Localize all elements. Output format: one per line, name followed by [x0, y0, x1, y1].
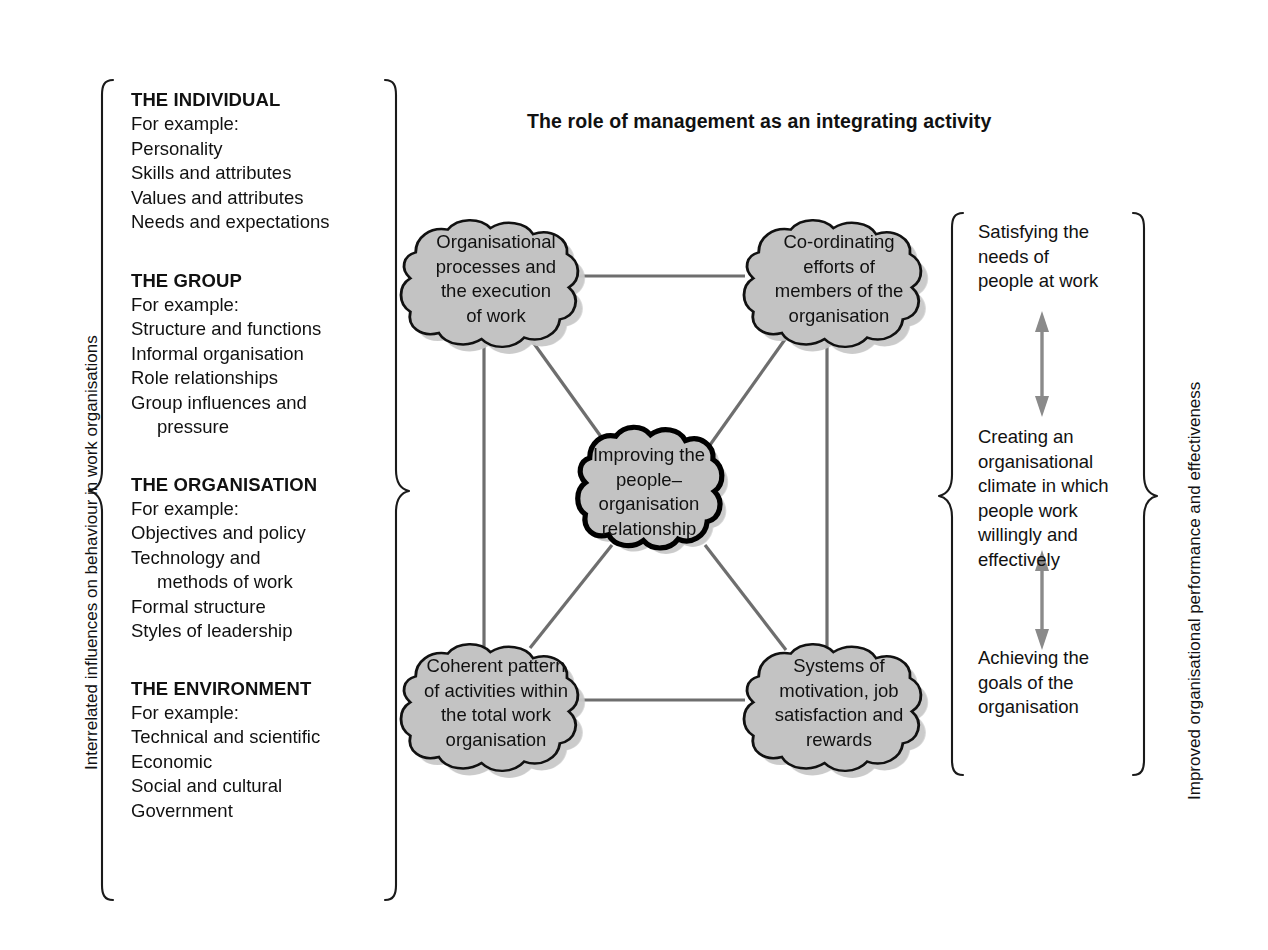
- group-lead: For example:: [131, 112, 399, 137]
- group-item: Technology and: [131, 546, 399, 571]
- group-item: Skills and attributes: [131, 161, 399, 186]
- group-heading: THE ORGANISATION: [131, 473, 399, 497]
- outcomes-left-brace: [939, 213, 963, 775]
- influences-list: THE INDIVIDUAL For example: Personality …: [131, 88, 399, 853]
- influence-group-organisation: THE ORGANISATION For example: Objectives…: [131, 473, 399, 644]
- figure-canvas: The role of management as an integrating…: [0, 0, 1268, 950]
- group-item: Social and cultural: [131, 774, 399, 799]
- right-axis-caption: Improved organisational performance and …: [1185, 382, 1205, 800]
- group-item: Values and attributes: [131, 186, 399, 211]
- group-item: pressure: [131, 415, 399, 440]
- group-heading: THE GROUP: [131, 269, 399, 293]
- group-item: Government: [131, 799, 399, 824]
- figure-title: The role of management as an integrating…: [527, 110, 991, 133]
- node-label-top-left: Organisationalprocesses andthe execution…: [410, 230, 582, 328]
- node-label-centre: Improving thepeople–organisationrelation…: [576, 443, 722, 541]
- group-item: Technical and scientific: [131, 725, 399, 750]
- group-item: Informal organisation: [131, 342, 399, 367]
- group-item: Personality: [131, 137, 399, 162]
- outcome-satisfying-needs: Satisfying theneeds ofpeople at work: [978, 220, 1143, 294]
- influence-group-group: THE GROUP For example: Structure and fun…: [131, 269, 399, 440]
- group-lead: For example:: [131, 497, 399, 522]
- group-item: Economic: [131, 750, 399, 775]
- group-item: Group influences and: [131, 391, 399, 416]
- group-item: Styles of leadership: [131, 619, 399, 644]
- left-axis-caption: Interrelated influences on behaviour in …: [82, 335, 102, 770]
- node-label-top-right: Co-ordinatingefforts ofmembers of theorg…: [753, 230, 925, 328]
- outcome-organisational-climate: Creating anorganisationalclimate in whic…: [978, 425, 1143, 572]
- influence-group-environment: THE ENVIRONMENT For example: Technical a…: [131, 677, 399, 824]
- group-lead: For example:: [131, 701, 399, 726]
- group-heading: THE INDIVIDUAL: [131, 88, 399, 112]
- influence-group-individual: THE INDIVIDUAL For example: Personality …: [131, 88, 399, 235]
- group-item: Formal structure: [131, 595, 399, 620]
- group-lead: For example:: [131, 293, 399, 318]
- group-item: methods of work: [131, 570, 399, 595]
- node-label-bottom-left: Coherent patternof activities withinthe …: [404, 654, 588, 752]
- node-label-bottom-right: Systems ofmotivation, jobsatisfaction an…: [753, 654, 925, 752]
- group-item: Role relationships: [131, 366, 399, 391]
- group-item: Structure and functions: [131, 317, 399, 342]
- outcome-achieving-goals: Achieving thegoals of theorganisation: [978, 646, 1143, 720]
- group-item: Objectives and policy: [131, 521, 399, 546]
- group-item: Needs and expectations: [131, 210, 399, 235]
- group-heading: THE ENVIRONMENT: [131, 677, 399, 701]
